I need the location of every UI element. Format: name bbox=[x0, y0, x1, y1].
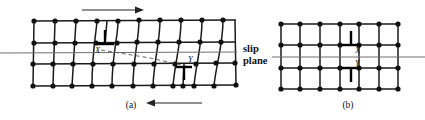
dislocation-symbol-y-b bbox=[342, 68, 360, 82]
dislocation-label-x-a: X bbox=[94, 45, 101, 55]
top-shear-arrow bbox=[82, 7, 144, 14]
dislocation-symbol-y-a bbox=[176, 67, 192, 80]
panel-a-caption: (a) bbox=[126, 100, 137, 111]
dislocation-figure: X Y (a) slip plane bbox=[0, 0, 425, 120]
slip-plane-label-line1: slip bbox=[243, 43, 259, 54]
bottom-shear-arrow bbox=[146, 100, 202, 107]
dislocation-symbol-x-b bbox=[342, 31, 360, 45]
dislocation-label-x-b: X bbox=[354, 45, 361, 55]
slip-plane-label-line2: plane bbox=[243, 55, 268, 66]
panel-b-caption: (b) bbox=[342, 100, 353, 111]
figure-canvas: X Y (a) slip plane bbox=[0, 0, 425, 120]
